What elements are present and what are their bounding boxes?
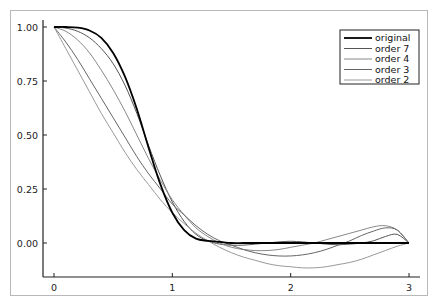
legend: originalorder 7order 4order 3order 2 xyxy=(340,30,419,85)
y-tick-label: 0.50 xyxy=(17,130,38,141)
y-tick-label: 0.25 xyxy=(17,184,38,195)
legend-label: order 7 xyxy=(375,43,409,54)
x-tick-label: 0 xyxy=(51,282,57,293)
x-tick-label: 3 xyxy=(406,282,412,293)
legend-label: order 3 xyxy=(375,64,409,75)
y-tick-label: 1.00 xyxy=(17,22,38,33)
legend-label: order 2 xyxy=(375,74,409,85)
y-tick-label: 0.75 xyxy=(17,76,38,87)
legend-label: original xyxy=(375,32,411,43)
y-tick-label: 0.00 xyxy=(17,238,38,249)
x-tick-label: 2 xyxy=(288,282,294,293)
x-tick-label: 1 xyxy=(169,282,175,293)
line-chart: 01230.000.250.500.751.00 originalorder 7… xyxy=(0,0,436,303)
legend-label: order 4 xyxy=(375,53,409,64)
